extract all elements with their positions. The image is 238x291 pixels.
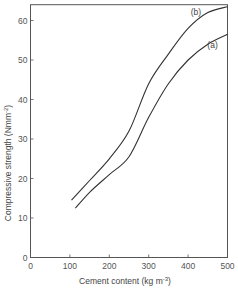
x-tick-label: 0 — [28, 261, 33, 271]
y-tick-label: 50 — [18, 55, 28, 65]
y-tick-label: 60 — [18, 16, 28, 26]
series-a-label: (a) — [207, 40, 218, 50]
x-tick-label: 500 — [220, 261, 234, 271]
series-b-line — [72, 7, 228, 201]
series-b-label: (b) — [191, 7, 202, 17]
x-axis-label: Cement content (kg m-3) — [79, 276, 171, 286]
y-tick-label: 20 — [18, 174, 28, 184]
y-tick-label: 0 — [23, 253, 28, 263]
chart: 01002003004005000102030405060 (b)(a) Cem… — [0, 0, 238, 291]
data-series: (b)(a) — [72, 7, 228, 209]
y-axis-label: Compressive strength (Nmm-2) — [3, 105, 13, 222]
y-tick-label: 30 — [18, 134, 28, 144]
x-tick-label: 300 — [142, 261, 156, 271]
y-tick-label: 10 — [18, 213, 28, 223]
axis-ticks: 01002003004005000102030405060 — [18, 16, 235, 271]
x-tick-label: 100 — [63, 261, 77, 271]
series-a-line — [75, 34, 227, 208]
y-tick-label: 40 — [18, 95, 28, 105]
x-tick-label: 200 — [102, 261, 116, 271]
x-tick-label: 400 — [181, 261, 195, 271]
